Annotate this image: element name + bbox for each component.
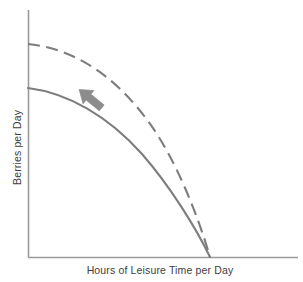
ppf-curve-original-solid	[28, 88, 210, 257]
chart-figure: Berries per Day Hours of Leisure Time pe…	[0, 0, 303, 282]
ppf-chart-svg: Berries per Day Hours of Leisure Time pe…	[0, 0, 303, 282]
ppf-curve-shifted-dashed	[28, 44, 210, 257]
y-axis-label: Berries per Day	[11, 109, 23, 185]
x-axis-label: Hours of Leisure Time per Day	[87, 264, 234, 276]
